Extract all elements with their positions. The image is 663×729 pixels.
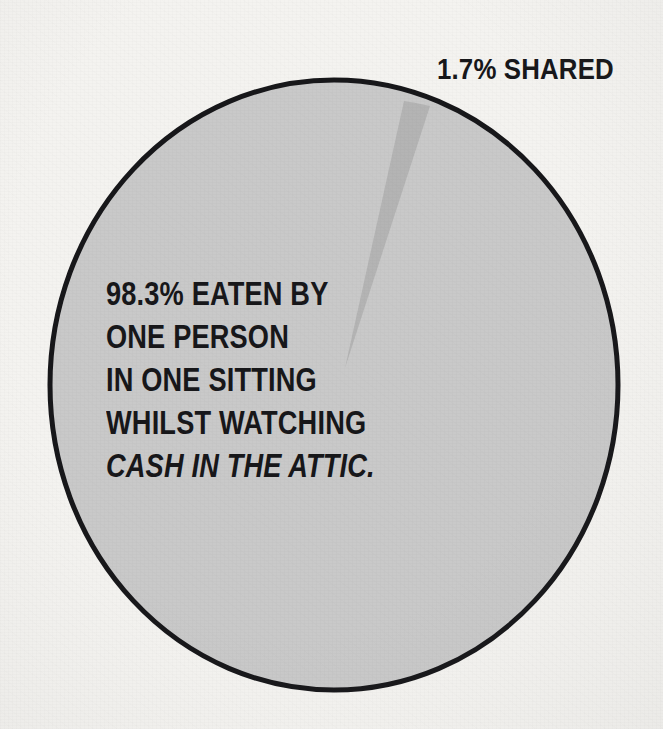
slice-label-eaten-line-2: ONE PERSON [106, 315, 375, 358]
slice-label-eaten-line-5: CASH IN THE ATTIC. [106, 444, 375, 487]
slice-label-shared: 1.7% SHARED [437, 52, 614, 86]
slice-label-eaten: 98.3% EATEN BY ONE PERSON IN ONE SITTING… [106, 272, 375, 487]
slice-label-eaten-line-4: WHILST WATCHING [106, 401, 375, 444]
slice-label-eaten-line-3: IN ONE SITTING [106, 358, 375, 401]
slice-label-eaten-line-1: 98.3% EATEN BY [106, 272, 375, 315]
